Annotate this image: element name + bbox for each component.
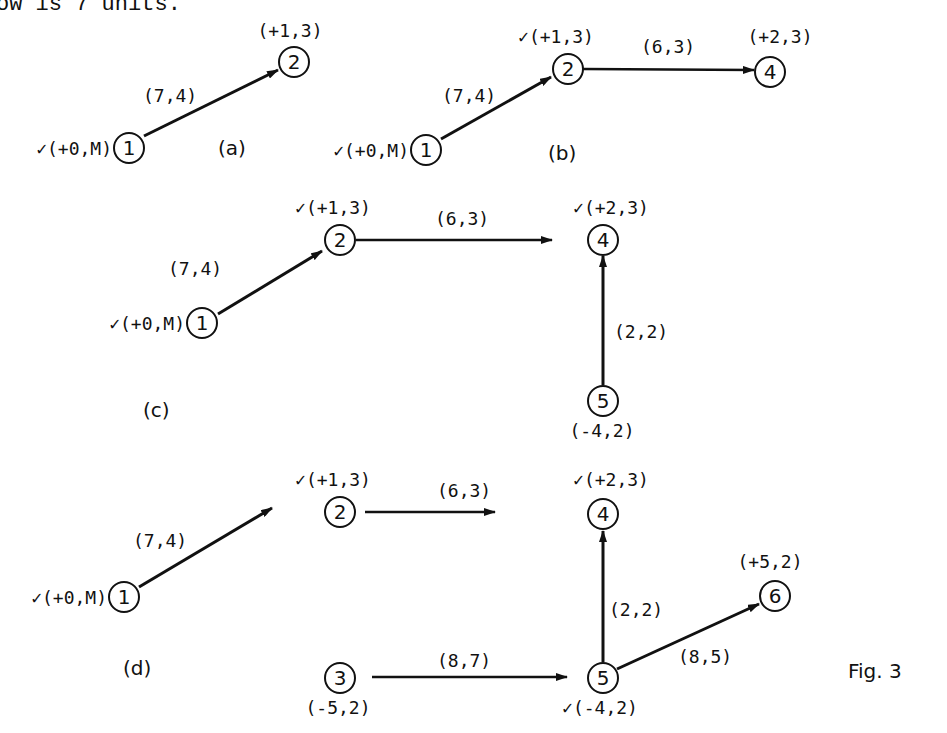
edge-label-1-2: (7,4) (168, 258, 222, 279)
panel-c-label: (c) (143, 398, 170, 422)
panel-d: (7,4) (6,3) (8,7) (2,2) (8,5) 1 ✓(+0,M) … (31, 469, 802, 718)
node-1-tag: ✓(+0,M) (36, 138, 112, 159)
figure-caption: Fig. 3 (848, 659, 902, 683)
node-1-tag: ✓(+0,M) (333, 140, 409, 161)
panel-d-label: (d) (123, 656, 151, 680)
panel-a: (7,4) 1 ✓(+0,M) 2 (+1,3) (a) (36, 20, 322, 163)
node-2-tag: ✓(+1,3) (518, 26, 594, 47)
edge-label-2-4: (6,3) (641, 36, 695, 57)
node-2-tag: ✓(+1,3) (295, 197, 371, 218)
edge-label-2-4: (6,3) (435, 208, 489, 229)
network-flow-figure: ow is 7 units. (7,4) 1 ✓(+0,M) 2 (+1,3) … (0, 0, 947, 733)
node-4-label: 4 (597, 228, 610, 252)
node-1-label: 1 (196, 311, 209, 335)
node-6-label: 6 (769, 584, 782, 608)
node-1-label: 1 (420, 138, 433, 162)
node-2-label: 2 (334, 228, 347, 252)
node-5-label: 5 (597, 666, 610, 690)
node-4-label: 4 (764, 60, 777, 84)
node-6-tag: (+5,2) (737, 551, 802, 572)
node-4-tag: ✓(+2,3) (573, 469, 649, 490)
node-2-tag: (+1,3) (257, 20, 322, 41)
edge-label-1-2: (7,4) (133, 530, 187, 551)
edge-2-4 (583, 69, 754, 70)
node-1-tag: ✓(+0,M) (31, 587, 107, 608)
panel-a-label: (a) (218, 136, 246, 160)
node-1-label: 1 (118, 585, 131, 609)
edge-label-1-2: (7,4) (442, 85, 496, 106)
node-5-label: 5 (597, 389, 610, 413)
node-3-tag: (-5,2) (305, 697, 370, 718)
node-2-label: 2 (562, 57, 575, 81)
panel-b-label: (b) (548, 141, 576, 165)
edge-1-2 (218, 251, 322, 314)
panel-c: (7,4) (6,3) (2,2) 1 ✓(+0,M) 2 ✓(+1,3) 4 … (109, 197, 668, 441)
node-2-tag: ✓(+1,3) (295, 469, 371, 490)
header-text-fragment: ow is 7 units. (0, 0, 181, 17)
edge-label-5-4: (2,2) (609, 599, 663, 620)
node-5-tag: (-4,2) (569, 420, 634, 441)
edge-label-3-5: (8,7) (437, 650, 491, 671)
node-2-label: 2 (334, 500, 347, 524)
node-2-label: 2 (288, 50, 301, 74)
edge-label-1-2: (7,4) (143, 85, 197, 106)
edge-label-5-6: (8,5) (678, 646, 732, 667)
node-4-tag: (+2,3) (747, 26, 812, 47)
edge-label-2-4: (6,3) (437, 480, 491, 501)
node-4-label: 4 (597, 502, 610, 526)
panel-b: (7,4) (6,3) 1 ✓(+0,M) 2 ✓(+1,3) 4 (+2,3)… (333, 26, 812, 165)
edge-label-5-4: (2,2) (614, 321, 668, 342)
node-1-label: 1 (123, 136, 136, 160)
node-5-tag: ✓(-4,2) (562, 697, 638, 718)
node-1-tag: ✓(+0,M) (109, 313, 185, 334)
node-4-tag: ✓(+2,3) (573, 197, 649, 218)
node-3-label: 3 (334, 666, 347, 690)
